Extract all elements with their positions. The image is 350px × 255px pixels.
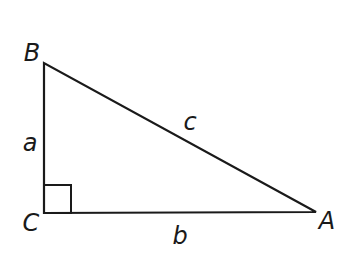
side-label-a: a [23, 131, 38, 155]
vertex-label-c: C [23, 211, 40, 235]
right-triangle-diagram: B C A a b c [0, 0, 350, 255]
triangle-outline [44, 63, 316, 213]
right-angle-marker [44, 185, 71, 213]
side-label-c: c [183, 110, 196, 134]
triangle-figure [0, 0, 350, 255]
side-label-b: b [172, 224, 187, 248]
vertex-label-b: B [24, 41, 40, 65]
vertex-label-a: A [319, 209, 335, 233]
